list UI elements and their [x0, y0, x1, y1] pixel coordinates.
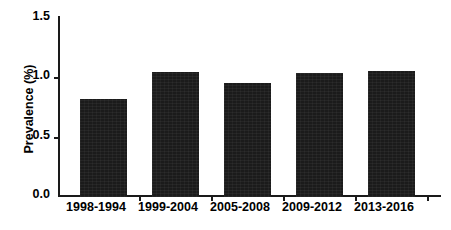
bar-chart-figure: Prevalence (%) 1.5 1.0 0.5 0.0 1998-1994…: [0, 0, 451, 230]
y-axis-title: Prevalence (%): [22, 29, 36, 189]
bar-2009-2012: [296, 73, 343, 197]
y-tick-label-0-0: 0.0: [4, 187, 50, 201]
bar-1999-2004: [152, 72, 199, 197]
bar-2005-2008: [224, 83, 271, 197]
plot-area: [58, 14, 440, 197]
figure-caption: [6, 221, 446, 230]
x-tick-label-5: 2013-2016: [330, 200, 438, 214]
y-tick-label-1-0: 1.0: [4, 68, 50, 82]
y-tick-label-0-5: 0.5: [4, 128, 50, 142]
bar-2013-2016: [368, 71, 415, 197]
bar-1998-1994: [80, 99, 127, 197]
y-tick-label-1-5: 1.5: [4, 9, 50, 23]
